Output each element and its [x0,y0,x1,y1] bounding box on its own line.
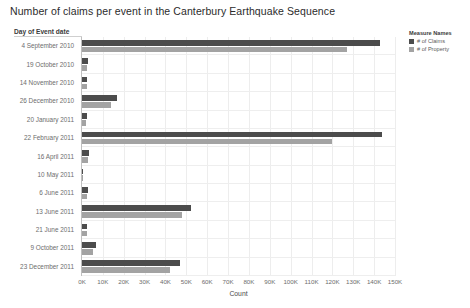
bar-row[interactable] [82,92,395,110]
y-axis-labels: 4 September 201019 October 201014 Novemb… [0,37,78,276]
x-axis-tick-label: 70K [223,278,234,285]
bar-claims[interactable] [82,58,88,64]
bar-property[interactable] [82,84,87,90]
legend: Measure Names # of Claims# of Property [409,30,469,54]
bar-property[interactable] [82,175,83,181]
visualization-container: Number of claims per event in the Canter… [0,0,470,308]
y-axis-label: 6 June 2011 [39,189,74,196]
bar-claims[interactable] [82,187,88,193]
bar-row[interactable] [82,55,395,73]
y-axis-label: 14 November 2010 [20,79,74,86]
plot-area [82,37,395,276]
y-axis-label: 4 September 2010 [21,42,74,49]
x-axis-tick-label: 50K [181,278,192,285]
bar-claims[interactable] [82,242,96,248]
legend-items: # of Claims# of Property [409,38,469,52]
y-axis-label: 19 October 2010 [26,61,74,68]
y-axis-header: Day of Event date [14,28,69,35]
y-axis-label: 22 February 2011 [24,134,74,141]
bar-claims[interactable] [82,77,87,83]
x-axis-tick-label: 0K [78,278,86,285]
bar-claims[interactable] [82,150,89,156]
y-axis-label: 20 January 2011 [27,116,74,123]
bar-claims[interactable] [82,205,191,211]
bar-claims[interactable] [82,260,180,266]
legend-item[interactable]: # of Property [409,46,469,52]
bar-claims[interactable] [82,95,117,101]
bar-property[interactable] [82,157,88,163]
bar-property[interactable] [82,65,87,71]
x-axis-tick-label: 30K [139,278,150,285]
legend-item[interactable]: # of Claims [409,38,469,44]
y-axis-label: 23 December 2011 [20,263,74,270]
x-axis-tick-label: 100K [283,278,297,285]
x-axis-tick-label: 120K [325,278,339,285]
bar-row[interactable] [82,184,395,202]
bar-row[interactable] [82,258,395,276]
y-axis-label: 16 April 2011 [37,153,74,160]
bar-row[interactable] [82,74,395,92]
bar-property[interactable] [82,102,111,108]
legend-swatch-icon [409,39,414,44]
bar-property[interactable] [82,194,87,200]
y-axis-label: 9 October 2011 [30,244,74,251]
x-axis-tick-label: 110K [305,278,319,285]
bar-claims[interactable] [82,224,87,230]
x-axis-tick-label: 20K [118,278,129,285]
legend-title: Measure Names [409,30,469,36]
x-axis-title: Count [82,290,395,297]
legend-label: # of Claims [417,38,445,44]
y-axis-label: 10 May 2011 [38,171,74,178]
bar-row[interactable] [82,129,395,147]
x-axis-tick-label: 130K [346,278,360,285]
bar-row[interactable] [82,221,395,239]
legend-swatch-icon [409,47,414,52]
x-axis-tick-label: 60K [202,278,213,285]
bar-row[interactable] [82,37,395,55]
x-axis-tick-label: 140K [367,278,381,285]
bar-claims[interactable] [82,40,380,46]
y-axis-label: 21 June 2011 [36,226,74,233]
bar-property[interactable] [82,231,87,237]
bar-row[interactable] [82,239,395,257]
bar-property[interactable] [82,139,332,145]
bar-property[interactable] [82,267,170,273]
x-axis-tick-label: 10K [97,278,108,285]
y-axis-label: 13 June 2011 [36,208,74,215]
bar-property[interactable] [82,212,182,218]
x-axis-tick-label: 150K [388,278,402,285]
bar-claims[interactable] [82,169,83,175]
bar-claims[interactable] [82,132,382,138]
bar-row[interactable] [82,147,395,165]
bar-property[interactable] [82,47,347,53]
bar-row[interactable] [82,166,395,184]
bar-property[interactable] [82,120,86,126]
bar-claims[interactable] [82,113,87,119]
legend-label: # of Property [417,46,449,52]
y-axis-label: 26 December 2010 [20,97,74,104]
bar-property[interactable] [82,249,93,255]
gridline [395,37,396,276]
x-axis-tick-label: 90K [264,278,275,285]
bar-row[interactable] [82,111,395,129]
x-axis-tick-label: 40K [160,278,171,285]
x-axis-tick-label: 80K [243,278,254,285]
chart-title: Number of claims per event in the Canter… [10,5,335,17]
bar-row[interactable] [82,202,395,220]
bar-rows [82,37,395,276]
